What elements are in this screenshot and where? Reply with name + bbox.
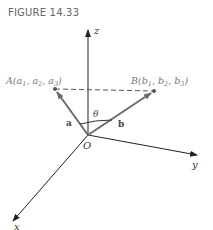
point-b-label: B(b1, b2, b3) [130,75,188,88]
x-axis [13,135,88,221]
y-axis-label: y [191,159,198,170]
z-axis-label: z [93,25,100,36]
dashed-line-ab [55,89,154,91]
origin-label: O [83,140,91,151]
angle-label: θ [93,109,99,119]
x-axis-label: x [14,221,20,230]
vector-a-label: a [66,118,72,128]
point-a-label: A(a1, a2, a3) [5,75,62,88]
vector-a [57,92,88,135]
vector-b-label: b [118,119,124,129]
y-axis [88,135,197,155]
vector-diagram: z y x O A(a1, a2, a3) B(b1, b2, b3) a b … [0,0,213,230]
point-b [152,89,156,93]
